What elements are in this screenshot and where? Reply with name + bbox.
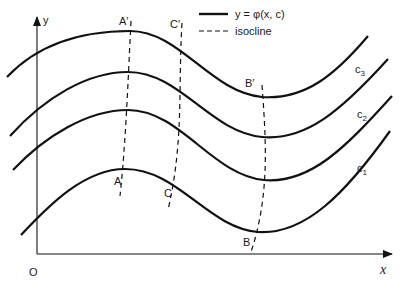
x-axis-label: x <box>379 262 387 277</box>
curve-c3 <box>10 59 388 137</box>
label-a-prime: A′ <box>119 15 128 27</box>
y-axis-label: y <box>43 14 49 26</box>
legend-solid-label: y = φ(x, c) <box>235 8 285 20</box>
label-c3: c3 <box>355 63 366 78</box>
isocline-b <box>251 85 265 252</box>
label-b-prime: B′ <box>245 77 254 89</box>
origin-label: O <box>29 266 38 278</box>
label-b: B <box>243 236 250 248</box>
legend: y = φ(x, c) isocline <box>199 8 285 37</box>
label-a: A <box>114 175 122 187</box>
curve-c1 <box>21 131 390 235</box>
label-c2: c2 <box>357 108 368 123</box>
curve-top <box>7 31 368 97</box>
label-c-prime: C′ <box>170 18 180 30</box>
family-of-curves-diagram: O x y A′ C′ B′ A C B c3 c2 c1 y = φ(x, c… <box>0 0 403 285</box>
label-c: C <box>164 187 172 199</box>
legend-dashed-label: isocline <box>235 25 272 37</box>
